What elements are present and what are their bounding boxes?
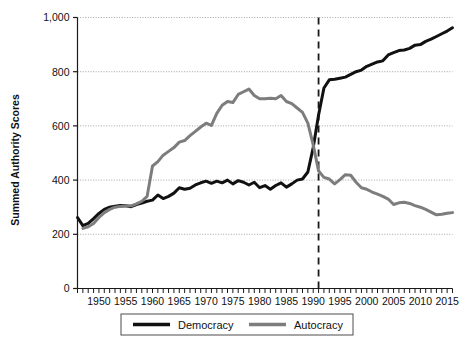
y-tick-label: 0 [64,282,70,294]
y-tick-label: 1,000 [43,11,69,23]
y-tick-label: 600 [52,120,70,132]
y-tick-label: 400 [52,174,70,186]
chart-legend: DemocracyAutocracy [121,314,353,335]
x-tick-label: 1985 [275,295,299,307]
x-tick-label: 1995 [328,295,352,307]
x-tick-label: 1950 [87,295,111,307]
x-tick-label: 1970 [194,295,218,307]
y-axis-title-label: Summed Authority Scores [9,94,21,226]
y-axis-title: Summed Authority Scores [9,94,21,226]
summed-authority-scores-line-chart: 02004006008001,000 195019551960196519701… [0,0,470,346]
chart-figure: 02004006008001,000 195019551960196519701… [0,0,470,346]
x-tick-label: 1960 [141,295,165,307]
x-tick-label: 1975 [221,295,245,307]
x-tick-label: 1965 [168,295,192,307]
y-tick-label: 800 [52,66,70,78]
x-tick-label: 2005 [382,295,406,307]
legend-label-autocracy: Autocracy [294,319,343,331]
x-tick-label: 2010 [409,295,433,307]
x-tick-label: 1980 [248,295,272,307]
x-tick-label: 1990 [302,295,326,307]
x-tick-label: 1955 [114,295,138,307]
legend-label-democracy: Democracy [178,319,234,331]
x-tick-label: 2000 [355,295,379,307]
x-tick-label: 2015 [435,295,459,307]
y-tick-label: 200 [52,228,70,240]
